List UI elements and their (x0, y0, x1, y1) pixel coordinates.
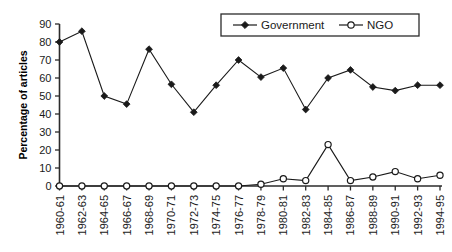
legend-label-ngo: NGO (367, 19, 393, 31)
x-tick-label: 1992-93 (412, 195, 424, 235)
data-point-government (302, 106, 309, 113)
line-chart: Percentage of articles010203040506070809… (0, 0, 452, 252)
data-point-ngo (437, 172, 443, 178)
data-point-government (392, 87, 399, 94)
data-point-ngo (370, 174, 376, 180)
y-tick-label: 80 (39, 36, 51, 48)
x-tick-label: 1984-85 (322, 195, 334, 235)
series-line-government (60, 31, 441, 112)
data-point-ngo (168, 183, 174, 189)
x-tick-label: 1994-95 (434, 195, 446, 235)
y-tick-label: 60 (39, 72, 51, 84)
x-tick-label: 1964-65 (98, 195, 110, 235)
x-tick-label: 1972-73 (188, 195, 200, 235)
y-tick-label: 70 (39, 54, 51, 66)
y-tick-label: 50 (39, 90, 51, 102)
data-point-government (414, 82, 421, 89)
y-tick-label: 20 (39, 144, 51, 156)
x-tick-label: 1976-77 (233, 195, 245, 235)
data-point-ngo (213, 183, 219, 189)
y-tick-label: 30 (39, 126, 51, 138)
x-tick-label: 1968-69 (143, 195, 155, 235)
data-point-ngo (124, 183, 130, 189)
x-tick-label: 1982-83 (300, 195, 312, 235)
data-point-ngo (146, 183, 152, 189)
y-tick-label: 10 (39, 162, 51, 174)
data-point-government (123, 101, 130, 108)
series-line-ngo (60, 145, 441, 186)
data-point-government (325, 75, 332, 82)
data-point-ngo (303, 178, 309, 184)
legend-label-government: Government (261, 19, 325, 31)
x-tick-label: 1960-61 (54, 195, 66, 235)
y-axis-title: Percentage of articles (17, 50, 29, 159)
y-tick-label: 90 (39, 18, 51, 30)
data-point-ngo (415, 176, 421, 182)
data-point-ngo (191, 183, 197, 189)
x-tick-label: 1990-91 (389, 195, 401, 235)
y-tick-label: 0 (45, 180, 51, 192)
y-tick-label: 40 (39, 108, 51, 120)
data-point-government (146, 46, 153, 53)
data-point-ngo (56, 183, 62, 189)
data-point-ngo (348, 22, 354, 28)
data-point-government (101, 93, 108, 100)
x-tick-label: 1986-87 (344, 195, 356, 235)
chart-container: Percentage of articles010203040506070809… (0, 0, 452, 252)
x-tick-label: 1988-89 (367, 195, 379, 235)
data-point-government (280, 65, 287, 72)
x-tick-label: 1966-67 (121, 195, 133, 235)
data-point-government (437, 82, 444, 89)
data-point-government (78, 28, 85, 35)
data-point-ngo (392, 169, 398, 175)
data-point-ngo (101, 183, 107, 189)
x-tick-label: 1974-75 (210, 195, 222, 235)
x-tick-label: 1978-79 (255, 195, 267, 235)
data-point-ngo (280, 176, 286, 182)
data-point-ngo (235, 183, 241, 189)
data-point-government (56, 39, 63, 46)
x-tick-label: 1980-81 (277, 195, 289, 235)
data-point-ngo (258, 181, 264, 187)
x-tick-label: 1970-71 (165, 195, 177, 235)
x-tick-label: 1962-63 (76, 195, 88, 235)
data-point-ngo (325, 142, 331, 148)
data-point-ngo (79, 183, 85, 189)
data-point-ngo (347, 178, 353, 184)
